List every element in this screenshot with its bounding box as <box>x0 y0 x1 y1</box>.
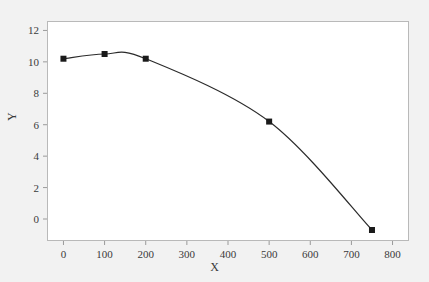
y-tick-label: 2 <box>13 182 39 193</box>
x-tick-label: 300 <box>179 249 196 260</box>
data-markers-series-1 <box>60 51 375 233</box>
x-tick-label: 0 <box>61 249 67 260</box>
x-tick-label: 200 <box>137 249 154 260</box>
y-tick-label: 8 <box>13 88 39 99</box>
x-tick-label: 400 <box>220 249 237 260</box>
x-tick-label: 500 <box>261 249 278 260</box>
data-point-marker <box>143 56 149 62</box>
data-point-marker <box>102 51 108 57</box>
data-line-series-1 <box>63 52 372 230</box>
x-tick-label: 100 <box>96 249 113 260</box>
y-tick-label: 10 <box>13 56 39 67</box>
y-tick-label: 4 <box>13 151 39 162</box>
chart-figure: 024681012 0100200300400500600700800 X Y <box>0 0 429 282</box>
y-tick-label: 12 <box>13 25 39 36</box>
y-tick-label: 0 <box>13 214 39 225</box>
data-point-marker <box>369 227 375 233</box>
x-tick-label: 800 <box>384 249 401 260</box>
x-axis-title: X <box>0 261 429 273</box>
tick-marks <box>43 30 393 245</box>
x-tick-label: 600 <box>302 249 319 260</box>
x-tick-label: 700 <box>343 249 360 260</box>
data-point-marker <box>266 119 272 125</box>
data-point-marker <box>60 56 66 62</box>
chart-svg-layer <box>0 0 429 282</box>
y-axis-title: Y <box>6 112 18 121</box>
